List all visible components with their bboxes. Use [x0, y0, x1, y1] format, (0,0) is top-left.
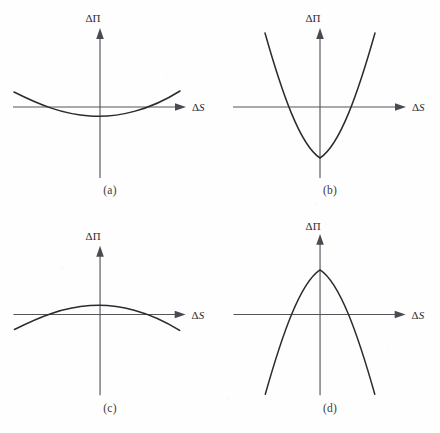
caption-b: (b): [220, 184, 440, 196]
x-axis-arrowhead: [395, 103, 406, 111]
panel-b: ΔΠ ΔS (b): [220, 0, 440, 216]
x-axis-arrowhead: [175, 103, 186, 111]
x-axis-label: ΔS: [412, 309, 425, 321]
y-axis-arrowhead: [96, 246, 104, 257]
panel-a: ΔΠ ΔS (a): [0, 0, 220, 216]
panel-c: ΔΠ ΔS (c): [0, 216, 220, 432]
curve-shallow-downward: [14, 305, 179, 330]
x-axis-delta-glyph: Δ: [192, 101, 199, 113]
x-axis-arrowhead: [395, 311, 406, 319]
y-axis-arrowhead: [316, 28, 324, 39]
x-axis-symbol-glyph: S: [419, 101, 425, 113]
y-axis-delta-glyph: Δ: [305, 12, 312, 24]
panel-d: ΔΠ ΔS (d): [220, 216, 440, 432]
x-axis-delta-glyph: Δ: [412, 309, 419, 321]
x-axis-label: ΔS: [192, 309, 205, 321]
x-axis-delta-glyph: Δ: [192, 309, 199, 321]
x-axis-symbol-glyph: S: [199, 309, 205, 321]
x-axis-arrowhead: [175, 311, 186, 319]
y-axis-delta-glyph: Δ: [306, 220, 313, 232]
y-axis-label: ΔΠ: [86, 230, 101, 242]
y-axis-symbol-glyph: Π: [93, 230, 101, 242]
panel-c-plot: ΔΠ ΔS: [0, 216, 220, 432]
x-axis-symbol-glyph: S: [199, 101, 205, 113]
x-axis-delta-glyph: Δ: [412, 101, 419, 113]
x-axis-symbol-glyph: S: [419, 309, 425, 321]
caption-d: (d): [220, 402, 440, 414]
y-axis-arrowhead: [316, 234, 324, 245]
caption-a: (a): [0, 184, 220, 196]
caption-c: (c): [0, 402, 220, 414]
y-axis-symbol-glyph: Π: [313, 12, 321, 24]
y-axis-symbol-glyph: Π: [313, 220, 321, 232]
figure-container: ΔΠ ΔS (a) ΔΠ ΔS (b): [0, 0, 440, 433]
y-axis-symbol-glyph: Π: [93, 12, 101, 24]
y-axis-label: ΔΠ: [305, 12, 320, 24]
y-axis-label: ΔΠ: [85, 12, 100, 24]
curve-shallow-upward: [14, 91, 180, 116]
y-axis-delta-glyph: Δ: [85, 12, 92, 24]
panel-d-plot: ΔΠ ΔS: [220, 216, 440, 432]
y-axis-label: ΔΠ: [306, 220, 321, 232]
x-axis-label: ΔS: [412, 101, 425, 113]
y-axis-delta-glyph: Δ: [86, 230, 93, 242]
x-axis-label: ΔS: [192, 101, 205, 113]
y-axis-arrowhead: [96, 28, 104, 39]
